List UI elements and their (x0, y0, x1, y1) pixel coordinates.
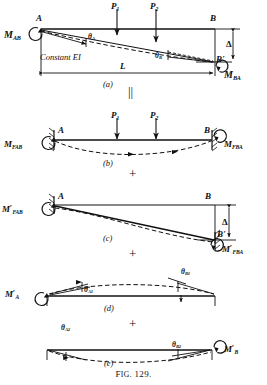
label-moment-ma-prime: M′A (5, 290, 19, 299)
operator-equals: || (128, 84, 133, 100)
moment-arrowhead-mb-prime (214, 347, 219, 353)
panel-tag-e: (e) (104, 358, 113, 368)
label-node-a-panel-b: A (58, 126, 64, 135)
label-theta-a2: θA2 (61, 324, 70, 332)
panel-d-drawing (35, 278, 215, 306)
label-node-b-panel-a: B (210, 14, 216, 23)
label-theta-b-panel-a: θB (155, 52, 162, 60)
label-constant-ei: Constant EI (40, 52, 81, 62)
label-node-b-panel-b: B (204, 126, 210, 135)
label-delta-panel-c: Δ (222, 218, 228, 227)
panel-tag-d: (d) (104, 303, 114, 313)
tangent-at-a (43, 32, 86, 44)
moment-arrowhead-mfba (214, 136, 219, 142)
curve-direction-marker-b (128, 152, 134, 156)
label-moment-mfba: MFBA (224, 140, 243, 149)
label-theta-b1: θB1 (181, 268, 190, 276)
label-delta-panel-a: Δ (226, 40, 232, 49)
label-theta-a-panel-a: θA (88, 33, 95, 41)
label-node-bprime-panel-a: B' (216, 55, 225, 64)
label-node-a-panel-c: A (58, 192, 64, 201)
label-load-p2-panel-b: P2 (150, 111, 158, 120)
panel-b-drawing (42, 118, 226, 156)
panel-tag-c: (c) (103, 233, 112, 243)
figure-129: MAB A B B' MBA P1 P2 θA θB Constant EI L… (0, 0, 267, 385)
elastic-curve-c (55, 208, 213, 242)
label-span-l: L (120, 62, 126, 71)
tangent-arrow-d-left (76, 280, 82, 284)
operator-plus-1: + (129, 166, 136, 182)
label-node-b-panel-c: B (205, 192, 211, 201)
tangent-d-right (177, 283, 214, 294)
label-load-p1-panel-b: P1 (111, 111, 119, 120)
panel-a-drawing (29, 9, 240, 76)
label-moment-mb-prime: M′B (224, 345, 238, 354)
panel-c-drawing (42, 194, 236, 251)
elastic-curve-b (55, 141, 211, 155)
label-node-bprime-panel-c: B' (217, 230, 226, 239)
moment-arrowhead-mba (216, 66, 221, 72)
label-theta-b2: θB2 (172, 341, 181, 349)
label-node-a-panel-a: A (36, 14, 42, 23)
label-moment-mfba-prime: M′FBA (222, 245, 243, 254)
operator-plus-2: + (129, 246, 136, 262)
label-load-p2-panel-a: P2 (150, 2, 158, 11)
operator-plus-3: + (129, 316, 136, 332)
label-theta-a1: θA1 (84, 286, 93, 294)
label-load-p1-panel-a: P1 (111, 2, 119, 11)
member-c-sway (55, 206, 214, 240)
elastic-curve-d (49, 285, 214, 294)
label-moment-mba: MBA (224, 70, 241, 80)
label-moment-mfab-prime: M′FAB (2, 205, 22, 214)
panel-e-drawing (47, 341, 226, 363)
panel-tag-a: (a) (103, 79, 113, 89)
hatching-c-left (49, 194, 54, 213)
label-moment-mfab: MFAB (4, 140, 22, 149)
figure-caption: FIG. 129. (0, 369, 267, 379)
panel-tag-b: (b) (103, 158, 113, 168)
label-moment-mab: MAB (4, 30, 21, 40)
